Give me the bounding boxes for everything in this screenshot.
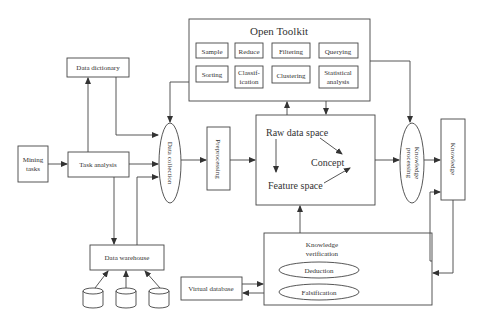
data-dictionary-label: Data dictionary — [76, 64, 120, 72]
falsification-label: Falsification — [302, 289, 337, 297]
tool-sorting-label: Sorting — [202, 71, 223, 79]
virtual-database-label: Virtual database — [188, 285, 233, 293]
data-collection-label: Data collection — [166, 142, 174, 185]
mining-tasks-label-2: tasks — [26, 165, 40, 173]
knowledge-processing-label-2: processing — [405, 148, 413, 178]
knowledge-verification-label-2: verification — [306, 250, 339, 258]
tool-querying-label: Querying — [325, 48, 352, 56]
knowledge-processing-label-1: Knowledge — [413, 147, 421, 179]
knowledge-verification-box — [264, 233, 432, 305]
concept-label: Concept — [311, 157, 345, 168]
tool-classification-label-2: ication — [239, 78, 259, 86]
mining-tasks-label-1: Mining — [23, 156, 44, 164]
tool-sample-label: Sample — [202, 48, 223, 56]
deduction-label: Deduction — [304, 267, 334, 275]
tool-statistical-label-2: analysis — [327, 78, 350, 86]
open-toolkit-title: Open Toolkit — [250, 25, 308, 37]
database-cylinder-icon — [116, 288, 136, 308]
tool-filtering-label: Filtering — [279, 48, 304, 56]
diagram-canvas: Open Toolkit Sample Reduce Filtering Que… — [0, 0, 481, 320]
database-cylinder-icon — [149, 288, 169, 308]
tool-classification-label-1: Classif- — [238, 69, 260, 77]
raw-data-space-label: Raw data space — [266, 127, 329, 138]
preprocessing-label: Preprocessing — [214, 139, 222, 179]
tool-clustering-label: Clustering — [276, 72, 306, 80]
data-warehouse-label: Data warehouse — [105, 254, 150, 262]
mining-tasks-box — [18, 146, 48, 182]
database-cylinder-icon — [83, 288, 103, 308]
feature-space-label: Feature space — [268, 180, 323, 191]
knowledge-label: Knowledge — [449, 143, 457, 175]
tool-statistical-label-1: Statistical — [324, 69, 352, 77]
task-analysis-label: Task analysis — [79, 161, 117, 169]
tool-reduce-label: Reduce — [239, 48, 260, 56]
knowledge-verification-label-1: Knowledge — [306, 241, 338, 249]
